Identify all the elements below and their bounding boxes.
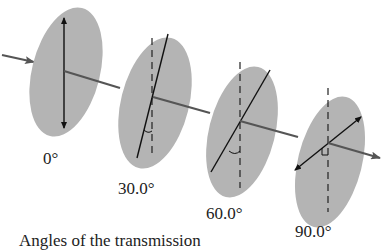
angle-label-90: 90.0° (295, 222, 332, 242)
caption: Angles of the transmission (19, 231, 201, 251)
angle-label-0: 0° (43, 149, 58, 169)
polarizer-30 (106, 30, 204, 176)
incoming-beam-arrow (2, 55, 34, 62)
angle-label-60: 60.0° (206, 204, 243, 224)
angle-label-30: 30.0° (118, 179, 155, 199)
polarizer-90 (283, 88, 378, 235)
